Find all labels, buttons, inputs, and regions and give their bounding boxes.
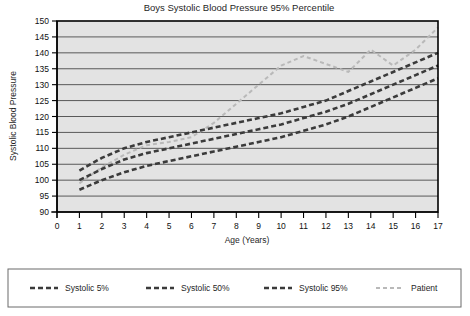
- x-tick-label: 12: [321, 221, 331, 231]
- x-tick-label: 11: [299, 221, 308, 231]
- x-tick-label: 15: [388, 221, 398, 231]
- x-tick-label: 3: [122, 221, 127, 231]
- y-tick-label: 125: [35, 96, 49, 106]
- x-tick-label: 0: [55, 221, 60, 231]
- x-tick-label: 8: [234, 221, 239, 231]
- y-tick-label: 90: [40, 207, 50, 217]
- y-tick-label: 140: [35, 48, 49, 58]
- x-tick-label: 13: [344, 221, 354, 231]
- x-axis-title: Age (Years): [225, 235, 270, 245]
- legend-label-patient: Patient: [411, 283, 438, 293]
- y-tick-label: 100: [35, 175, 49, 185]
- y-tick-label: 120: [35, 112, 49, 122]
- x-tick-label: 9: [256, 221, 261, 231]
- x-tick-label: 6: [189, 221, 194, 231]
- chart-title: Boys Systolic Blood Pressure 95% Percent…: [144, 2, 335, 13]
- y-tick-label: 135: [35, 64, 49, 74]
- x-tick-label: 17: [433, 221, 443, 231]
- y-tick-label: 130: [35, 80, 49, 90]
- x-tick-label: 7: [212, 221, 217, 231]
- y-tick-label: 110: [35, 143, 49, 153]
- legend-label-systolic-95: Systolic 95%: [299, 283, 348, 293]
- y-tick-label: 145: [35, 32, 49, 42]
- y-tick-label: 150: [35, 16, 49, 26]
- x-tick-label: 10: [276, 221, 286, 231]
- y-tick-label: 105: [35, 159, 49, 169]
- x-tick-label: 5: [167, 221, 172, 231]
- x-tick-label: 16: [411, 221, 421, 231]
- x-tick-label: 14: [366, 221, 376, 231]
- blood-pressure-chart: Boys Systolic Blood Pressure 95% Percent…: [0, 0, 470, 316]
- legend-label-systolic-5: Systolic 5%: [65, 283, 109, 293]
- legend-label-systolic-50: Systolic 50%: [181, 283, 230, 293]
- y-axis-title: Systolic Blood Pressure: [8, 71, 18, 161]
- y-tick-label: 115: [35, 127, 49, 137]
- x-tick-label: 2: [99, 221, 104, 231]
- y-tick-label: 95: [40, 191, 50, 201]
- x-tick-label: 1: [77, 221, 82, 231]
- x-tick-label: 4: [144, 221, 149, 231]
